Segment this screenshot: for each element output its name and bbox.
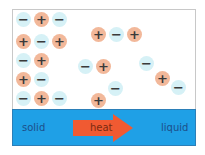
solid-label: solid [22,122,45,133]
negative-ion: − [16,91,31,106]
negative-ion: − [109,27,124,42]
positive-ion: + [91,93,106,108]
negative-ion: − [52,12,67,27]
negative-ion: − [34,72,49,87]
heat-label: heat [90,122,113,133]
negative-ion: − [108,81,123,96]
positive-ion: + [16,72,31,87]
positive-ion: + [91,27,106,42]
positive-ion: + [96,59,111,74]
negative-ion: − [78,59,93,74]
negative-ion: − [16,12,31,27]
negative-ion: − [171,80,186,95]
positive-ion: + [34,91,49,106]
negative-ion: − [16,53,31,68]
negative-ion: − [139,56,154,71]
negative-ion: − [52,91,67,106]
positive-ion: + [155,71,170,86]
positive-ion: + [34,12,49,27]
liquid-label: liquid [161,122,188,133]
positive-ion: + [34,53,49,68]
positive-ion: + [16,34,31,49]
positive-ion: + [127,27,142,42]
negative-ion: − [34,34,49,49]
positive-ion: + [52,34,67,49]
